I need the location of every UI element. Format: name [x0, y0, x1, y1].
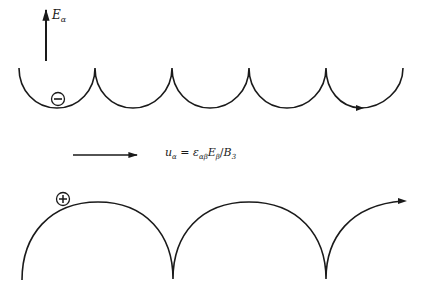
field-subscript: α	[61, 15, 66, 24]
negative-particle-trajectory	[19, 68, 403, 108]
formula-e: E	[208, 146, 216, 159]
formula-b: B	[224, 146, 232, 159]
formula-b-sub: 3	[232, 153, 236, 161]
bottom-trajectory-arrowhead	[398, 198, 407, 204]
formula-epsilon-sub: αβ	[199, 153, 208, 161]
top-trajectory-arrowhead	[356, 105, 364, 111]
positive-particle-trajectory	[22, 201, 403, 280]
electric-field-label: Eα	[52, 8, 66, 24]
positive-charge-icon	[57, 193, 70, 206]
negative-charge-icon	[52, 93, 65, 106]
formula-equals: =	[177, 146, 193, 159]
drift-velocity-formula: uα = εαβEβ/B3	[165, 146, 236, 161]
field-symbol: E	[52, 8, 61, 22]
